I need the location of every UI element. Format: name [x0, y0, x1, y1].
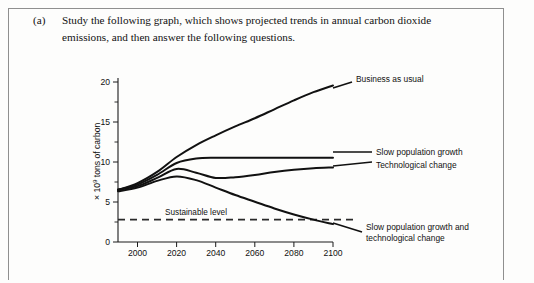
question-text: Study the following graph, which shows p…	[62, 12, 474, 46]
question-marker: (a)	[33, 12, 45, 29]
question-frame	[8, 8, 504, 280]
document-page: (a) Study the following graph, which sho…	[0, 0, 534, 283]
